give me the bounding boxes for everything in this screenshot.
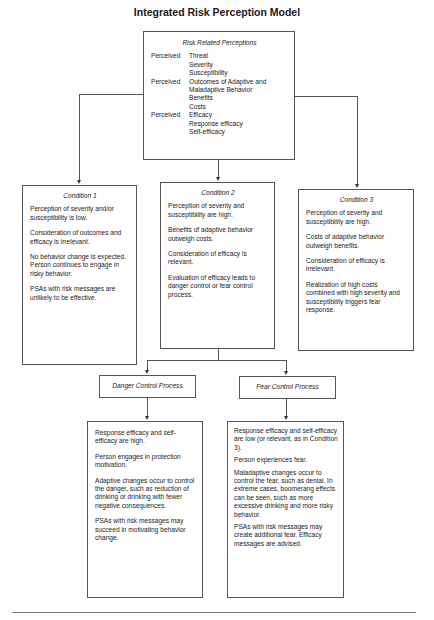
connector-left-v: [79, 94, 80, 181]
process-text: PSAs with risk messages may create addit…: [234, 523, 338, 548]
condition-text: No behavior change is expected. Person c…: [30, 253, 130, 278]
process-text: Adaptive changes occur to control the da…: [95, 477, 196, 511]
condition-heading: Condition 1: [30, 192, 130, 200]
process-text: Response efficacy and self-efficacy are …: [234, 427, 338, 452]
fear-control-process-label: Fear Control Process: [256, 383, 318, 390]
arrow-down-icon: [77, 180, 81, 184]
danger-control-detail-box: Response efficacy and self-efficacy are …: [87, 421, 203, 598]
condition-1-box: Condition 1 Perception of severity and/o…: [22, 185, 137, 365]
condition-text: Perception of severity and susceptibilit…: [168, 202, 268, 219]
risk-perceptions-heading: Risk Related Perceptions: [151, 39, 288, 47]
perception-row: Susceptibility: [151, 69, 288, 77]
process-text: Person experiences fear.: [234, 456, 338, 464]
process-text: Person engages in protection motivation.: [95, 453, 196, 470]
condition-3-box: Condition 3 Perception of severity and s…: [298, 189, 414, 351]
condition-text: Perception of severity and/or susceptibi…: [30, 205, 130, 222]
condition-text: Benefits of adaptive behavior outweigh c…: [168, 226, 268, 243]
danger-control-process-label: Danger Control Process: [112, 382, 182, 389]
condition-text: Evaluation of efficacy leads to danger c…: [168, 274, 268, 299]
process-text: Maladaptive changes occur to control the…: [234, 469, 338, 519]
connector-right-h: [295, 96, 358, 97]
condition-text: Costs of adaptive behavior outweigh bene…: [306, 233, 407, 250]
condition-heading: Condition 3: [306, 196, 407, 204]
condition-text: Consideration of efficacy is relevant.: [168, 250, 268, 267]
connector-danger-detail-v: [147, 398, 148, 417]
arrow-down-icon: [145, 370, 149, 374]
perception-row: Costs: [151, 103, 288, 111]
diagram-title: Integrated Risk Perception Model: [0, 6, 434, 18]
arrow-down-icon: [284, 416, 288, 420]
perception-row: Benefits: [151, 94, 288, 102]
arrow-down-icon: [145, 416, 149, 420]
perception-row: Maladaptive Behavior: [151, 86, 288, 94]
condition-text: Realization of high costs combined with …: [306, 281, 407, 315]
process-text: Response efficacy and self-efficacy are …: [95, 429, 196, 446]
perception-row: PerceivedThreat: [151, 52, 288, 60]
arrow-down-icon: [216, 177, 220, 181]
condition-heading: Condition 2: [168, 189, 268, 197]
condition-2-box: Condition 2 Perception of severity and s…: [160, 182, 275, 349]
connector-fear-detail-v: [286, 399, 287, 417]
page-rule: [12, 612, 416, 613]
arrow-down-icon: [355, 184, 359, 188]
perception-row: Severity: [151, 61, 288, 69]
connector-branch-h: [147, 360, 287, 361]
connector-left-h: [79, 94, 143, 95]
condition-text: PSAs with risk messages are unlikely to …: [30, 285, 130, 302]
connector-center-v: [218, 160, 219, 178]
process-text: PSAs with risk messages may succeed in m…: [95, 517, 196, 542]
connector-branch-v: [218, 349, 219, 360]
condition-text: Consideration of outcomes and efficacy i…: [30, 229, 130, 246]
danger-control-process-box: Danger Control Process: [99, 375, 196, 398]
perception-row: PerceivedOutcomes of Adaptive and: [151, 78, 288, 86]
risk-perceptions-box: Risk Related Perceptions PerceivedThreat…: [143, 31, 295, 160]
perception-row: PerceivedEfficacy: [151, 111, 288, 119]
fear-control-process-box: Fear Control Process: [239, 376, 336, 399]
perception-row: Response efficacy: [151, 120, 288, 128]
condition-text: Perception of severity and susceptibilit…: [306, 209, 407, 226]
connector-right-v: [357, 96, 358, 185]
perception-row: Self-efficacy: [151, 128, 288, 136]
arrow-down-icon: [284, 371, 288, 375]
condition-text: Consideration of efficacy is irrelevant.: [306, 257, 407, 274]
fear-control-detail-box: Response efficacy and self-efficacy are …: [227, 421, 344, 598]
